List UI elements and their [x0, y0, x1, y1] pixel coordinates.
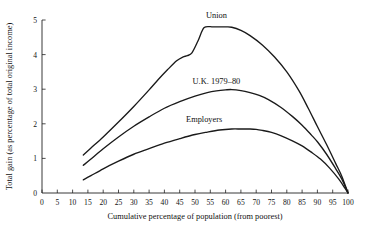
- x-axis-tick-label: 5: [55, 198, 59, 207]
- chart-figure: 0510152025303540455055606570758085909510…: [0, 0, 375, 231]
- y-axis-tick-label: 5: [33, 16, 37, 25]
- x-axis-title: Cumulative percentage of population (fro…: [107, 212, 282, 221]
- chart-series-curves: [83, 26, 348, 193]
- x-axis-tick-label: 95: [329, 198, 337, 207]
- y-axis-tick-label: 3: [33, 85, 37, 94]
- series-inline-labels: UnionU.K. 1979–80Employers: [186, 11, 240, 123]
- y-axis-title: Total gain (as percentage of total origi…: [5, 23, 14, 191]
- y-axis-tick-labels: 012345: [33, 16, 37, 198]
- series-curve-employers: [83, 129, 348, 193]
- y-axis-tick-label: 2: [33, 120, 37, 129]
- x-axis-tick-label: 85: [298, 198, 306, 207]
- x-axis-tick-label: 20: [99, 198, 107, 207]
- series-label-union: Union: [206, 11, 228, 20]
- y-axis-tick-label: 1: [33, 154, 37, 163]
- y-axis-tick-label: 0: [33, 189, 37, 198]
- x-axis-tick-label: 30: [130, 198, 138, 207]
- chart-plot-area: 0510152025303540455055606570758085909510…: [0, 0, 375, 231]
- x-axis-tick-label: 0: [40, 198, 44, 207]
- x-axis-tick-label: 40: [161, 198, 169, 207]
- series-label-employers: Employers: [186, 115, 222, 124]
- x-axis-tick-label: 10: [69, 198, 77, 207]
- x-axis-tick-label: 45: [176, 198, 184, 207]
- x-axis-tick-label: 90: [314, 198, 322, 207]
- x-axis-tick-label: 70: [252, 198, 260, 207]
- x-axis-tick-label: 80: [283, 198, 291, 207]
- x-axis-tick-label: 50: [191, 198, 199, 207]
- x-axis-tick-label: 65: [237, 198, 245, 207]
- x-axis-tick-label: 60: [222, 198, 230, 207]
- x-axis-tick-label: 75: [268, 198, 276, 207]
- series-curve-u-k-1979-80: [83, 90, 348, 193]
- series-label-u-k-1979-80: U.K. 1979–80: [193, 77, 241, 86]
- x-axis-tick-label: 35: [145, 198, 153, 207]
- series-curve-union: [83, 26, 348, 193]
- x-axis-tick-label: 15: [84, 198, 92, 207]
- x-axis-tick-labels: 0510152025303540455055606570758085909510…: [40, 198, 354, 207]
- x-axis-tick-label: 100: [342, 198, 354, 207]
- y-axis-tick-label: 4: [33, 51, 37, 60]
- x-axis-tick-label: 25: [115, 198, 123, 207]
- x-axis-tick-label: 55: [207, 198, 215, 207]
